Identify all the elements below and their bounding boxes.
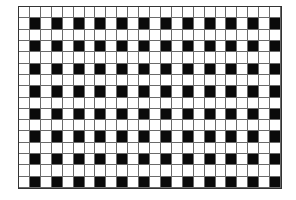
grid-cell-empty: [172, 109, 183, 120]
grid-cell-filled: [117, 41, 128, 52]
grid-cell-empty: [150, 98, 161, 109]
grid-cell-empty: [128, 75, 139, 86]
grid-cell-filled: [248, 177, 259, 188]
grid-cell-filled: [139, 18, 150, 29]
grid-cell-empty: [183, 165, 194, 176]
grid-cell-empty: [248, 98, 259, 109]
grid-cell-empty: [128, 64, 139, 75]
grid-cell-filled: [117, 177, 128, 188]
grid-cell-empty: [161, 120, 172, 131]
grid-cell-empty: [128, 18, 139, 29]
grid-cell-empty: [172, 120, 183, 131]
grid-cell-empty: [226, 165, 237, 176]
grid-cell-empty: [194, 41, 205, 52]
grid-cell-empty: [63, 30, 74, 41]
grid-cell-empty: [194, 109, 205, 120]
grid-cell-empty: [150, 120, 161, 131]
grid-cell-filled: [205, 86, 216, 97]
grid-cell-empty: [85, 86, 96, 97]
grid-cell-empty: [41, 177, 52, 188]
grid-cell-filled: [183, 109, 194, 120]
grid-cell-empty: [41, 52, 52, 63]
grid-cell-empty: [205, 52, 216, 63]
grid-cell-empty: [19, 120, 30, 131]
grid-cell-filled: [205, 18, 216, 29]
grid-cell-empty: [63, 52, 74, 63]
grid-cell-empty: [259, 86, 270, 97]
grid-cell-filled: [270, 131, 281, 142]
grid-cell-filled: [52, 109, 63, 120]
grid-cell-filled: [95, 131, 106, 142]
grid-cell-empty: [172, 75, 183, 86]
grid-cell-empty: [237, 75, 248, 86]
grid-cell-empty: [172, 98, 183, 109]
grid-cell-empty: [41, 165, 52, 176]
grid-cell-filled: [52, 154, 63, 165]
grid-cell-empty: [19, 18, 30, 29]
grid-cell-empty: [19, 52, 30, 63]
grid-cell-empty: [19, 64, 30, 75]
grid-cell-filled: [95, 18, 106, 29]
grid-cell-empty: [172, 64, 183, 75]
grid-cell-empty: [63, 7, 74, 18]
grid-cell-empty: [205, 75, 216, 86]
grid-cell-empty: [52, 75, 63, 86]
grid-cell-filled: [205, 109, 216, 120]
grid-cell-filled: [117, 154, 128, 165]
grid-cell-empty: [63, 75, 74, 86]
grid-cell-empty: [139, 98, 150, 109]
grid-cell-empty: [106, 64, 117, 75]
grid-cell-empty: [85, 98, 96, 109]
grid-cell-empty: [194, 131, 205, 142]
grid-cell-empty: [106, 18, 117, 29]
grid-cell-filled: [226, 86, 237, 97]
grid-cell-filled: [30, 86, 41, 97]
grid-cell-filled: [95, 64, 106, 75]
grid-cell-filled: [139, 177, 150, 188]
grid-cell-empty: [237, 98, 248, 109]
grid-cell-empty: [106, 143, 117, 154]
grid-cell-filled: [270, 177, 281, 188]
grid-cell-empty: [237, 177, 248, 188]
grid-cell-filled: [52, 86, 63, 97]
grid-cell-empty: [150, 143, 161, 154]
grid-cell-empty: [259, 75, 270, 86]
grid-cell-filled: [161, 154, 172, 165]
grid-cell-empty: [226, 75, 237, 86]
checkered-grid: [18, 6, 282, 189]
grid-cell-empty: [41, 131, 52, 142]
grid-cell-filled: [248, 18, 259, 29]
grid-cell-filled: [74, 64, 85, 75]
grid-cell-empty: [106, 7, 117, 18]
grid-cell-filled: [30, 109, 41, 120]
grid-cell-empty: [106, 120, 117, 131]
grid-cell-empty: [172, 18, 183, 29]
grid-cell-empty: [63, 177, 74, 188]
grid-cell-filled: [161, 131, 172, 142]
grid-cell-empty: [259, 109, 270, 120]
grid-cell-empty: [63, 154, 74, 165]
grid-cell-filled: [248, 109, 259, 120]
grid-cell-empty: [259, 177, 270, 188]
grid-cell-empty: [237, 41, 248, 52]
grid-cell-filled: [30, 41, 41, 52]
grid-cell-empty: [128, 165, 139, 176]
grid-cell-empty: [150, 75, 161, 86]
grid-cell-empty: [128, 177, 139, 188]
grid-cell-empty: [95, 52, 106, 63]
grid-cell-empty: [172, 41, 183, 52]
grid-cell-empty: [128, 131, 139, 142]
grid-cell-empty: [150, 64, 161, 75]
grid-cell-filled: [74, 131, 85, 142]
grid-cell-empty: [248, 52, 259, 63]
grid-cell-filled: [95, 154, 106, 165]
grid-cell-empty: [41, 154, 52, 165]
grid-cell-empty: [172, 30, 183, 41]
grid-cell-empty: [85, 177, 96, 188]
grid-cell-filled: [205, 41, 216, 52]
grid-cell-filled: [95, 177, 106, 188]
grid-cell-filled: [248, 64, 259, 75]
grid-cell-filled: [52, 41, 63, 52]
grid-cell-empty: [106, 109, 117, 120]
grid-cell-empty: [41, 143, 52, 154]
